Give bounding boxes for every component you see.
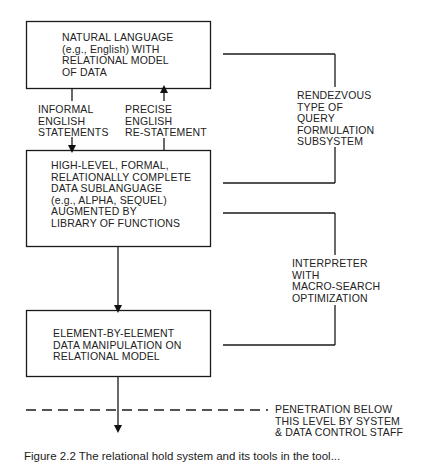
box-element-manipulation-text: ELEMENT-BY-ELEMENT DATA MANIPULATION ON … [53, 328, 181, 363]
penetration-note: PENETRATION BELOW THIS LEVEL BY SYSTEM &… [275, 404, 403, 439]
informal-english-label: INFORMAL ENGLISH STATEMENTS [38, 104, 109, 139]
box-data-sublanguage-text: HIGH-LEVEL, FORMAL, RELATIONALLY COMPLET… [51, 160, 191, 230]
box-natural-language-text: NATURAL LANGUAGE (e.g., English) WITH RE… [62, 32, 174, 78]
interpreter-label: INTERPRETER WITH MACRO-SEARCH OPTIMIZATI… [292, 258, 380, 304]
rendezvous-label: RENDEZVOUS TYPE OF QUERY FORMULATION SUB… [297, 90, 374, 148]
figure-caption: Figure 2.2 The relational hold system an… [24, 450, 340, 462]
precise-english-label: PRECISE ENGLISH RE-STATEMENT [125, 104, 207, 139]
